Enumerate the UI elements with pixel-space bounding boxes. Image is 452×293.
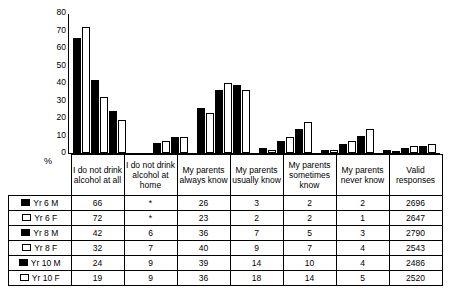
bar-yr-6-m (321, 150, 329, 154)
table-corner-cell (9, 155, 72, 196)
table-header-parents-usually-know: My parents usually know (230, 155, 283, 196)
table-cell: 2543 (389, 241, 442, 256)
table-cell: 2 (336, 196, 389, 211)
bar-yr-8-m (277, 141, 285, 153)
bar-yr-10-f (428, 144, 436, 153)
bar-yr-6-f (330, 150, 338, 154)
legend-label: Yr 8 F (34, 243, 57, 253)
chart-figure: 80 70 60 50 40 30 20 10 0 % I do not dri… (0, 0, 452, 293)
table-row: Yr 10 M24939141042486 (9, 256, 443, 271)
bar-yr-8-m (215, 90, 223, 153)
y-tick-50: 50 (57, 61, 66, 70)
y-tick-80: 80 (57, 8, 66, 17)
bar-group (69, 14, 131, 153)
legend-swatch-icon (20, 274, 29, 281)
legend-label: Yr 8 M (33, 228, 58, 238)
table-cell: 5 (336, 271, 389, 286)
bar-yr-10-f (366, 129, 374, 154)
bar-yr-8-f (162, 141, 170, 153)
legend-swatch-icon (22, 214, 31, 221)
bar-yr-8-m (401, 148, 409, 153)
legend-label: Yr 6 F (34, 213, 57, 223)
bar-yr-8-m (91, 80, 99, 154)
table-cell: 42 (71, 226, 124, 241)
table-cell: 2520 (389, 271, 442, 286)
table-cell: 24 (71, 256, 124, 271)
table-cell: 9 (230, 241, 283, 256)
table-cell: 9 (124, 271, 177, 286)
bar-yr-10-m (295, 129, 303, 154)
table-cell: 23 (177, 211, 230, 226)
bar-yr-10-m (171, 137, 179, 153)
legend-key-yr-6-f: Yr 6 F (9, 211, 72, 226)
table-header-parents-always-know: My parents always know (177, 155, 230, 196)
bar-missing-yr-6-m (135, 152, 143, 153)
table-cell: 26 (177, 196, 230, 211)
bar-yr-10-m (357, 136, 365, 154)
bar-yr-8-f (224, 83, 232, 153)
bar-yr-8-f (100, 97, 108, 153)
table-cell: 66 (71, 196, 124, 211)
table-cell: 19 (71, 271, 124, 286)
bar-group (316, 14, 378, 153)
bar-yr-10-f (304, 122, 312, 154)
table-cell: * (124, 211, 177, 226)
legend-label: Yr 10 M (31, 258, 61, 268)
table-cell: 4 (336, 256, 389, 271)
table-cell: 2486 (389, 256, 442, 271)
legend-key-yr-8-m: Yr 8 M (9, 226, 72, 241)
table-cell: 14 (230, 256, 283, 271)
bar-yr-8-f (286, 137, 294, 153)
legend-key-yr-8-f: Yr 8 F (9, 241, 72, 256)
y-tick-10: 10 (57, 131, 66, 140)
table-cell: 40 (177, 241, 230, 256)
table-header-parents-never-know: My parents never know (336, 155, 389, 196)
table-cell: 2790 (389, 226, 442, 241)
table-row: Yr 6 F72*232212647 (9, 211, 443, 226)
table-header-not-drink-at-home: I do not drink alcohol at home (124, 155, 177, 196)
y-tick-70: 70 (57, 26, 66, 35)
table-cell: 72 (71, 211, 124, 226)
bar-yr-6-m (73, 38, 81, 154)
bar-yr-6-m (259, 148, 267, 153)
table-row: Yr 6 M66*263222696 (9, 196, 443, 211)
legend-key-yr-10-m: Yr 10 M (9, 256, 72, 271)
bar-missing-yr-6-f (144, 152, 152, 153)
table-header-row: I do not drink alcohol at all I do not d… (9, 155, 443, 196)
bar-yr-6-f (82, 27, 90, 153)
table-cell: 36 (177, 226, 230, 241)
legend-swatch-icon (19, 259, 28, 266)
bar-yr-10-f (118, 120, 126, 153)
bar-yr-10-m (419, 146, 427, 153)
table-cell: 14 (283, 271, 336, 286)
bar-yr-6-f (392, 151, 400, 153)
table-cell: 3 (336, 226, 389, 241)
y-tick-40: 40 (57, 78, 66, 87)
bar-yr-10-m (109, 111, 117, 153)
table-cell: 2 (283, 196, 336, 211)
table-cell: 7 (230, 226, 283, 241)
bar-yr-10-m (233, 85, 241, 153)
table-cell: 2696 (389, 196, 442, 211)
bar-yr-6-f (268, 150, 276, 154)
data-table: I do not drink alcohol at all I do not d… (8, 154, 443, 286)
bar-group (131, 14, 193, 153)
bar-group (193, 14, 255, 153)
bar-yr-8-f (410, 146, 418, 153)
table-header-not-drink-at-all: I do not drink alcohol at all (71, 155, 124, 196)
bar-yr-6-m (197, 108, 205, 154)
table-row: Yr 8 F327409742543 (9, 241, 443, 256)
table-cell: 4 (336, 241, 389, 256)
legend-swatch-icon (22, 244, 31, 251)
bar-group (254, 14, 316, 153)
bar-yr-10-f (242, 90, 250, 153)
bar-yr-6-m (383, 150, 391, 154)
table-header-parents-sometimes-know: My parents sometimes know (283, 155, 336, 196)
bar-yr-6-f (206, 113, 214, 153)
bar-yr-8-f (348, 141, 356, 153)
bar-group (378, 14, 440, 153)
table-cell: 2 (230, 211, 283, 226)
table-cell: 32 (71, 241, 124, 256)
plot-area (68, 14, 440, 154)
bar-yr-8-m (153, 143, 161, 154)
